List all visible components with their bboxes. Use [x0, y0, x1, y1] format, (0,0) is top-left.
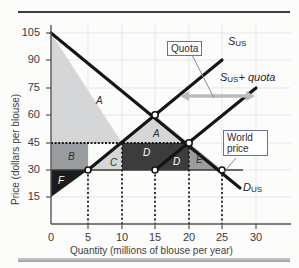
x-tick-20: 20: [179, 232, 199, 243]
x-tick-30: 30: [246, 232, 266, 243]
region-label-b: B: [68, 152, 75, 162]
y-axis-ticks: [46, 33, 51, 197]
region-f-shape: [51, 170, 88, 197]
x-axis-ticks: [88, 224, 256, 229]
x-axis-title: Quantity (millions of blouse per year): [70, 246, 233, 256]
point-25-30: [219, 167, 225, 173]
region-label-a-lower: A: [153, 129, 160, 139]
supply-us-curve-label: SUS: [228, 36, 246, 48]
y-tick-105: 105: [14, 27, 40, 38]
x-tick-25: 25: [212, 232, 232, 243]
region-label-d-left: D: [143, 148, 150, 158]
supply-quota-curve-label: SUS+ quota: [220, 72, 275, 84]
region-label-d-right: D: [173, 157, 180, 167]
x-tick-0: 0: [41, 232, 61, 243]
world-price-line-2: price: [227, 143, 249, 154]
supply-quota-plus: + quota: [238, 71, 275, 83]
world-price-callout: World price: [223, 130, 268, 156]
x-tick-5: 5: [78, 232, 98, 243]
supply-demand-quota-figure: 105 90 75 60 45 30 15 0 5 10 15 20 25 30…: [0, 0, 299, 268]
demand-us-subscript: US: [251, 185, 262, 194]
x-tick-10: 10: [112, 232, 132, 243]
region-e-shape: [189, 143, 222, 170]
supply-us-subscript: US: [235, 39, 246, 48]
point-20-45: [186, 140, 192, 146]
point-15-60: [152, 112, 158, 118]
y-tick-75: 75: [14, 82, 40, 93]
y-axis-title: Price (dollars per blouse): [11, 94, 21, 205]
quota-callout: Quota: [167, 41, 202, 56]
region-label-a-upper: A: [96, 96, 103, 106]
region-label-c: C: [110, 158, 117, 168]
y-tick-90: 90: [14, 54, 40, 65]
region-label-e: E: [196, 155, 203, 165]
region-label-f: F: [58, 176, 64, 186]
supply-quota-subscript: US: [227, 75, 238, 84]
point-15-30: [152, 167, 158, 173]
x-tick-15: 15: [145, 232, 165, 243]
demand-us-curve-label: DUS: [243, 182, 262, 194]
point-5-30: [85, 167, 91, 173]
demand-us-letter: D: [243, 181, 251, 193]
world-price-line-1: World: [227, 132, 253, 143]
